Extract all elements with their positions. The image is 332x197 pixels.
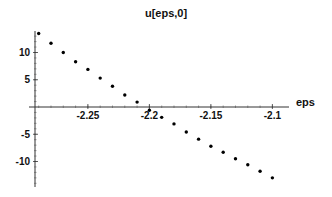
data-point (111, 85, 114, 88)
data-point (246, 163, 249, 166)
data-point (49, 42, 52, 45)
data-point (86, 68, 89, 71)
data-point (185, 130, 188, 133)
data-point (62, 51, 65, 54)
data-point (98, 76, 101, 79)
data-point (148, 109, 151, 112)
data-point (160, 116, 163, 119)
x-tick-label: -2.25 (76, 110, 99, 121)
data-point (37, 32, 40, 35)
data-point (258, 170, 261, 173)
data-point (74, 60, 77, 63)
data-point (172, 122, 175, 125)
y-tick-label: 5 (24, 74, 30, 85)
x-tick-label: -2.15 (199, 110, 222, 121)
y-tick-label: -10 (16, 156, 31, 167)
y-tick-label: 10 (19, 47, 31, 58)
data-point (123, 93, 126, 96)
data-point (135, 100, 138, 103)
data-point (197, 137, 200, 140)
data-point (209, 145, 212, 148)
scatter-plot: -2.25-2.2-2.15-2.1eps-10-5510 (0, 0, 332, 197)
data-point (234, 157, 237, 160)
x-tick-label: -2.1 (264, 110, 282, 121)
y-tick-label: -5 (21, 129, 30, 140)
data-point (271, 176, 274, 179)
data-point (221, 151, 224, 154)
x-axis-label: eps (296, 96, 315, 108)
